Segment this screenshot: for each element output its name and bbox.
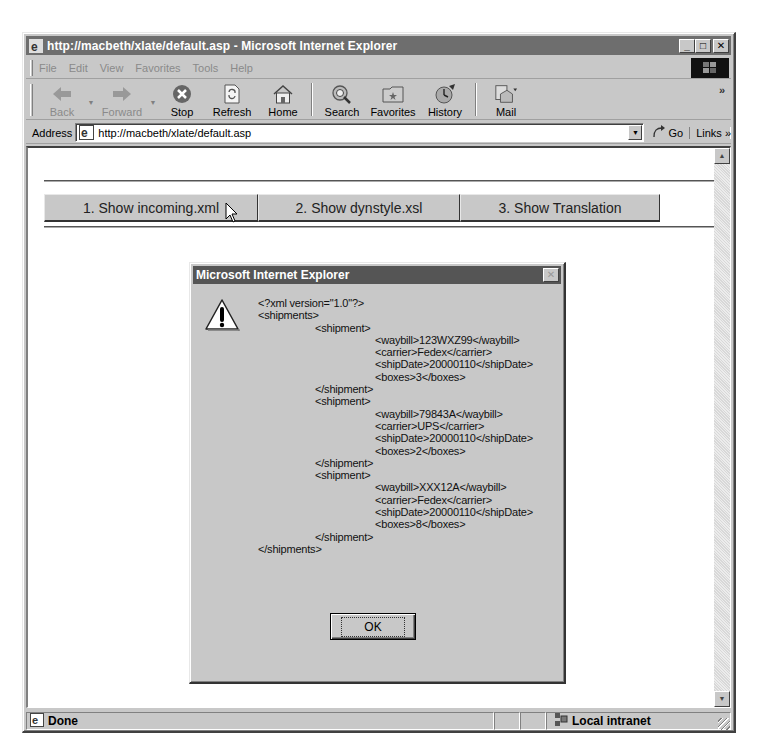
windows-logo-throbber-icon [691,58,729,78]
message-line: <carrier>Fedex</carrier> [258,346,533,358]
status-bar: e Done Local intranet [26,711,731,731]
horizontal-rule [44,180,716,182]
status-text: Done [48,714,78,728]
message-line: </shipment> [258,531,533,543]
message-line: <shipDate>20000110</shipDate> [258,358,533,370]
message-line: <shipments> [258,309,533,321]
show-translation-button[interactable]: 3. Show Translation [460,194,660,222]
dialog-title: Microsoft Internet Explorer [196,268,543,282]
maximize-button[interactable]: □ [695,39,711,53]
ie-logo-icon: e [28,38,44,54]
address-dropdown-button[interactable]: ▼ [628,125,642,140]
message-line: <shipDate>20000110</shipDate> [258,432,533,444]
resize-grip[interactable] [718,718,730,730]
history-button[interactable]: History [419,80,471,119]
menu-tools[interactable]: Tools [193,62,219,74]
address-label: Address [32,127,72,139]
zone-panel: Local intranet [546,712,731,730]
message-line: </shipment> [258,457,533,469]
go-arrow-icon [652,125,666,140]
menu-edit[interactable]: Edit [69,62,88,74]
address-input[interactable]: e http://macbeth/xlate/default.asp ▼ [75,123,644,142]
title-bar[interactable]: e http://macbeth/xlate/default.asp - Mic… [26,36,731,55]
message-line: </shipment> [258,383,533,395]
message-line: <shipment> [258,322,533,334]
dialog-title-bar[interactable]: Microsoft Internet Explorer ✕ [193,266,561,284]
back-button[interactable]: Back [39,80,85,119]
menu-help[interactable]: Help [230,62,253,74]
toolbar-overflow-chevron[interactable]: » [719,84,725,96]
stop-icon [170,83,194,105]
svg-text:e: e [32,714,38,726]
dialog-close-button[interactable]: ✕ [543,268,559,282]
forward-arrow-icon [110,83,134,105]
zone-text: Local intranet [572,714,651,728]
forward-button[interactable]: Forward [97,80,147,119]
message-line: <boxes>2</boxes> [258,445,533,457]
warning-icon [204,298,240,335]
message-line: <shipDate>20000110</shipDate> [258,506,533,518]
message-line: <waybill>79843A</waybill> [258,408,533,420]
history-icon [433,83,457,105]
back-arrow-icon [50,83,74,105]
standard-toolbar: Back ▼ Forward ▼ Stop Refresh Home [26,80,731,120]
menubar-grip[interactable] [30,60,33,76]
message-line: </shipments> [258,543,533,555]
message-line: <carrier>Fedex</carrier> [258,494,533,506]
address-url: http://macbeth/xlate/default.asp [98,127,628,139]
alert-dialog: Microsoft Internet Explorer ✕ <?xml vers… [189,262,566,684]
message-line: <?xml version="1.0"?> [258,297,533,309]
favorites-button[interactable]: Favorites [367,80,419,119]
message-line: <shipment> [258,469,533,481]
svg-text:e: e [81,126,88,140]
menu-file[interactable]: File [39,62,57,74]
mouse-pointer-icon [225,202,239,227]
message-line: <boxes>8</boxes> [258,518,533,530]
menu-view[interactable]: View [100,62,124,74]
search-icon [330,83,354,105]
mail-button[interactable]: Mail [481,80,531,119]
close-button[interactable]: ✕ [713,39,729,53]
refresh-icon [220,83,244,105]
address-bar: Address e http://macbeth/xlate/default.a… [26,122,731,144]
stop-button[interactable]: Stop [159,80,205,119]
page-button-row: 1. Show incoming.xml 2. Show dynstyle.xs… [44,194,660,222]
status-panel-progress [494,712,520,730]
message-line: <boxes>3</boxes> [258,371,533,383]
forward-dropdown-arrow[interactable]: ▼ [147,99,159,106]
home-button[interactable]: Home [259,80,307,119]
horizontal-rule [44,226,716,228]
message-line: <shipment> [258,395,533,407]
status-panel: e Done [26,712,494,730]
toolbar-separator [311,83,313,116]
search-button[interactable]: Search [317,80,367,119]
message-line: <carrier>UPS</carrier> [258,420,533,432]
home-icon [271,83,295,105]
links-toolbar[interactable]: Links » [689,127,731,139]
svg-text:e: e [31,40,38,53]
local-intranet-icon [554,712,568,731]
show-dynstyle-xsl-button[interactable]: 2. Show dynstyle.xsl [258,194,460,222]
minimize-button[interactable]: _ [679,39,695,53]
menu-bar: File Edit View Favorites Tools Help [26,57,731,79]
ok-button[interactable]: OK [330,613,416,640]
refresh-button[interactable]: Refresh [205,80,259,119]
menu-favorites[interactable]: Favorites [135,62,180,74]
vertical-scrollbar[interactable]: ▲ ▼ [714,148,730,707]
go-button[interactable]: Go [652,125,683,140]
scroll-down-button[interactable]: ▼ [714,691,730,707]
scroll-up-button[interactable]: ▲ [714,148,730,164]
window-title: http://macbeth/xlate/default.asp - Micro… [47,39,679,53]
dialog-message: <?xml version="1.0"?><shipments><shipmen… [258,297,533,555]
favorites-folder-icon [381,83,405,105]
message-line: <waybill>123WXZ99</waybill> [258,334,533,346]
status-panel-security [520,712,546,730]
back-dropdown-arrow[interactable]: ▼ [85,99,97,106]
message-line: <waybill>XXX12A</waybill> [258,481,533,493]
page-status-icon: e [30,713,44,730]
toolbar-separator [475,83,477,116]
toolbar-grip[interactable] [30,84,33,116]
page-ie-icon: e [78,125,94,141]
mail-icon [494,83,518,105]
